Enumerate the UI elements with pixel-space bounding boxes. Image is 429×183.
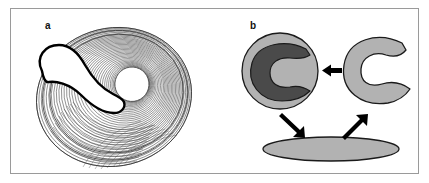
gray-crescent xyxy=(344,38,410,104)
figure-frame: a xyxy=(10,8,419,174)
section-geometry-drawing xyxy=(226,9,420,175)
arrow-crescent-to-disc xyxy=(322,65,342,77)
panel-b: b xyxy=(226,9,420,173)
panel-a: a xyxy=(11,9,226,173)
figure-canvas: a xyxy=(0,0,429,183)
disc-with-dark-crescent xyxy=(242,33,318,109)
arrow-disc-to-ellipse xyxy=(279,113,305,138)
attractor-drawing xyxy=(11,9,226,175)
flat-ellipse xyxy=(263,137,399,161)
attractor-trajectory-bundle xyxy=(22,11,207,175)
poincare-section-band xyxy=(40,45,125,113)
arrow-ellipse-to-crescent xyxy=(342,114,368,140)
